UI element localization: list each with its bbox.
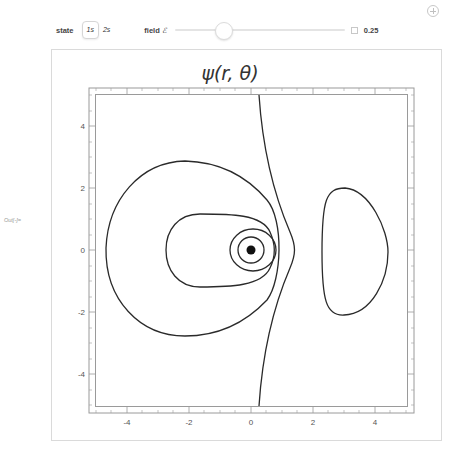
contour-plot: -4 -2 0 2 4 4 2 0 -2 -4 bbox=[0, 0, 460, 461]
x-tick-label: -4 bbox=[123, 418, 131, 427]
y-tick-label: 2 bbox=[81, 184, 86, 193]
x-tick-label: -2 bbox=[185, 418, 193, 427]
y-tick-label: -4 bbox=[78, 370, 86, 379]
y-tick-label: 4 bbox=[81, 122, 86, 131]
x-tick-label: 0 bbox=[249, 418, 254, 427]
x-tick-label: 2 bbox=[311, 418, 316, 427]
contour-right-lobe bbox=[322, 188, 388, 315]
nucleus-dot bbox=[247, 246, 256, 255]
tick-labels: -4 -2 0 2 4 4 2 0 -2 -4 bbox=[78, 122, 378, 427]
contour-middle-loop bbox=[166, 214, 275, 287]
y-tick-label: -2 bbox=[78, 308, 86, 317]
x-tick-label: 4 bbox=[373, 418, 378, 427]
y-tick-label: 0 bbox=[81, 246, 86, 255]
